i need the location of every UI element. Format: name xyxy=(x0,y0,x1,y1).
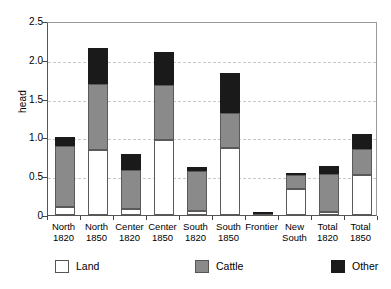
x-axis-tick-mark xyxy=(212,216,213,220)
bar-segment-other[interactable] xyxy=(253,212,273,214)
bar-group[interactable] xyxy=(319,21,339,215)
y-axis-tick-mark xyxy=(42,61,47,62)
y-axis-tick-label: 0.5 xyxy=(19,172,43,182)
y-axis-tick-label: 0 xyxy=(19,211,43,221)
x-axis: North1820North1850Center1820Center1850So… xyxy=(47,216,377,256)
legend-label: Land xyxy=(76,260,99,272)
bar-segment-cattle[interactable] xyxy=(154,85,174,139)
bar-group[interactable] xyxy=(286,21,306,215)
plot-area xyxy=(47,22,377,216)
x-axis-tick-mark xyxy=(179,216,180,220)
legend-label: Other xyxy=(352,260,378,272)
bar-group[interactable] xyxy=(55,21,75,215)
y-axis-tick-mark xyxy=(42,138,47,139)
cattle-swatch xyxy=(195,260,209,273)
bar-segment-land[interactable] xyxy=(55,207,75,215)
bar-segment-cattle[interactable] xyxy=(88,84,108,150)
x-axis-tick-mark xyxy=(311,216,312,220)
legend-label: Cattle xyxy=(216,260,243,272)
other-swatch xyxy=(331,260,345,273)
bar-segment-cattle[interactable] xyxy=(352,149,372,175)
x-axis-tick-mark xyxy=(47,216,48,220)
x-axis-tick-label-line: Total xyxy=(338,221,384,232)
bar-group[interactable] xyxy=(253,21,273,215)
y-axis-tick-labels: 00.51.01.52.02.5 xyxy=(18,0,43,289)
bar-segment-other[interactable] xyxy=(286,173,306,175)
bar-segment-other[interactable] xyxy=(220,73,240,113)
bar-group[interactable] xyxy=(154,21,174,215)
x-axis-tick-label-line: 1850 xyxy=(206,232,252,243)
bar-group[interactable] xyxy=(187,21,207,215)
bar-segment-land[interactable] xyxy=(286,189,306,215)
x-axis-tick-mark xyxy=(278,216,279,220)
y-axis-tick-mark xyxy=(42,22,47,23)
legend-item-cattle[interactable]: Cattle xyxy=(195,258,243,274)
legend-item-land[interactable]: Land xyxy=(55,258,99,274)
bar-segment-cattle[interactable] xyxy=(319,174,339,212)
bar-segment-other[interactable] xyxy=(121,154,141,170)
bar-segment-other[interactable] xyxy=(187,167,207,171)
y-axis-tick-label: 1.0 xyxy=(19,133,43,143)
bar-segment-land[interactable] xyxy=(352,175,372,215)
bar-segment-land[interactable] xyxy=(88,150,108,215)
x-axis-tick-label: Total1850 xyxy=(338,221,384,243)
bar-segment-cattle[interactable] xyxy=(55,146,75,207)
y-axis-tick-label: 2.0 xyxy=(19,56,43,66)
chart-legend: LandCattleOther xyxy=(47,258,377,282)
bar-group[interactable] xyxy=(220,21,240,215)
x-axis-tick-mark xyxy=(146,216,147,220)
bar-segment-cattle[interactable] xyxy=(220,113,240,147)
bar-segment-other[interactable] xyxy=(319,166,339,174)
bar-segment-land[interactable] xyxy=(154,140,174,215)
bar-segment-land[interactable] xyxy=(187,211,207,215)
y-axis-tick-mark xyxy=(42,177,47,178)
y-axis-tick-mark xyxy=(42,100,47,101)
bar-segment-other[interactable] xyxy=(88,48,108,84)
stacked-bar-chart: head 00.51.01.52.02.5 North1820North1850… xyxy=(0,0,391,289)
bar-group[interactable] xyxy=(352,21,372,215)
bar-segment-cattle[interactable] xyxy=(187,171,207,211)
y-axis-tick-label: 1.5 xyxy=(19,95,43,105)
y-axis-tick-label: 2.5 xyxy=(19,17,43,27)
x-axis-tick-label-line: 1850 xyxy=(338,232,384,243)
x-axis-tick-mark xyxy=(113,216,114,220)
bar-group[interactable] xyxy=(88,21,108,215)
bar-segment-land[interactable] xyxy=(319,212,339,215)
bar-segment-land[interactable] xyxy=(121,209,141,215)
x-axis-tick-mark xyxy=(344,216,345,220)
bar-segment-land[interactable] xyxy=(220,148,240,216)
bar-group[interactable] xyxy=(121,21,141,215)
x-axis-tick-mark xyxy=(377,216,378,220)
bar-segment-other[interactable] xyxy=(154,52,174,85)
bar-segment-cattle[interactable] xyxy=(286,175,306,189)
bar-segment-cattle[interactable] xyxy=(121,170,141,209)
y-axis-tick-mark xyxy=(42,216,47,217)
legend-item-other[interactable]: Other xyxy=(331,258,378,274)
land-swatch xyxy=(55,260,69,273)
bar-segment-other[interactable] xyxy=(55,137,75,146)
x-axis-tick-mark xyxy=(245,216,246,220)
bar-segment-other[interactable] xyxy=(352,134,372,150)
x-axis-tick-mark xyxy=(80,216,81,220)
